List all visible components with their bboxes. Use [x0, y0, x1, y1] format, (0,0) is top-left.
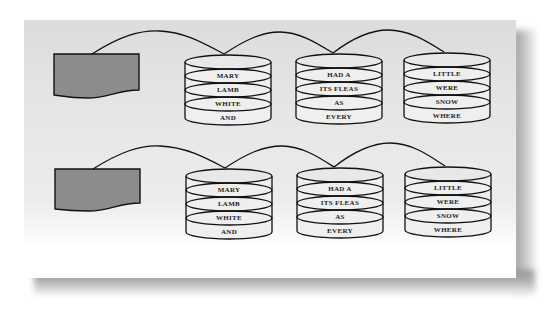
record-label: HAD A — [328, 185, 351, 193]
record-label: WERE — [436, 84, 459, 92]
document-shape — [55, 169, 140, 211]
record-label: WHITE — [216, 214, 242, 222]
row-1: MARY LAMB WHITE AND HAD A ITS FLEAS AS E… — [54, 30, 490, 125]
record-label: MARY — [217, 72, 240, 80]
document-shape — [54, 54, 139, 98]
record-label: ITS FLEAS — [320, 85, 358, 93]
link-arrow — [92, 31, 224, 54]
record-label: SNOW — [436, 98, 459, 106]
cylinder: HAD A ITS FLEAS AS EVERY — [297, 168, 383, 238]
cylinder: LITTLE WERE SNOW WHERE — [404, 53, 490, 123]
cylinder: MARY LAMB WHITE AND — [186, 169, 272, 239]
record-label: LITTLE — [433, 70, 461, 78]
record-label: SNOW — [437, 212, 460, 220]
linked-list-diagram: MARY LAMB WHITE AND HAD A ITS FLEAS AS E… — [0, 0, 551, 311]
record-label: WHERE — [434, 226, 462, 234]
record-label: AS — [334, 99, 344, 107]
link-arrow — [333, 30, 444, 53]
record-label: LAMB — [217, 86, 239, 94]
link-arrow — [225, 146, 334, 168]
record-label: EVERY — [327, 227, 353, 235]
cylinder: LITTLE WERE SNOW WHERE — [405, 167, 491, 237]
record-label: AND — [220, 114, 236, 122]
record-label: ITS FLEAS — [321, 199, 359, 207]
record-label: EVERY — [326, 113, 352, 121]
record-label: WHERE — [433, 112, 461, 120]
record-label: HAD A — [327, 71, 350, 79]
link-arrow — [334, 143, 445, 167]
link-arrow — [224, 32, 333, 54]
record-label: WHITE — [215, 100, 241, 108]
row-2: MARY LAMB WHITE AND HAD A ITS FLEAS AS E… — [55, 143, 491, 239]
record-label: MARY — [218, 186, 241, 194]
record-label: AND — [221, 228, 237, 236]
record-label: WERE — [437, 198, 460, 206]
record-label: AS — [335, 213, 345, 221]
link-arrow — [93, 146, 225, 169]
cylinder: MARY LAMB WHITE AND — [185, 55, 271, 125]
record-label: LITTLE — [434, 184, 462, 192]
record-label: LAMB — [218, 200, 240, 208]
cylinder: HAD A ITS FLEAS AS EVERY — [296, 54, 382, 124]
